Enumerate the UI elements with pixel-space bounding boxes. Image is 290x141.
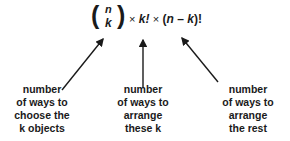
label-choose: number of ways to choose the k objects bbox=[2, 83, 82, 135]
label-line: number bbox=[208, 83, 288, 96]
label-line: number bbox=[103, 83, 183, 96]
arrow-arrange-rest-icon bbox=[182, 38, 218, 82]
label-line: these k bbox=[103, 122, 183, 135]
label-line: k objects bbox=[2, 122, 82, 135]
label-line: the rest bbox=[208, 122, 288, 135]
label-line: of ways to bbox=[2, 96, 82, 109]
label-arrange-these: number of ways to arrange these k bbox=[103, 83, 183, 135]
label-line: of ways to bbox=[208, 96, 288, 109]
label-line: arrange bbox=[208, 109, 288, 122]
label-arrange-rest: number of ways to arrange the rest bbox=[208, 83, 288, 135]
label-line: arrange bbox=[103, 109, 183, 122]
label-line: choose the bbox=[2, 109, 82, 122]
label-line: number bbox=[2, 83, 82, 96]
label-line: of ways to bbox=[103, 96, 183, 109]
